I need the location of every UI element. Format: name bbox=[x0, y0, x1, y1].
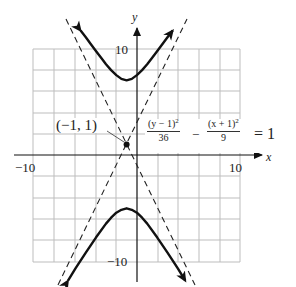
x-max-tick-label: 10 bbox=[229, 161, 242, 174]
y-max-tick-label: 10 bbox=[115, 43, 128, 56]
center-point-label: (−1, 1) bbox=[56, 118, 97, 133]
x-min-tick-label: −10 bbox=[15, 161, 35, 174]
y-min-tick-label: −10 bbox=[107, 255, 127, 268]
y-axis-label: y bbox=[132, 11, 137, 23]
fraction-2: (x + 1)2 9 bbox=[207, 119, 240, 143]
center-point bbox=[124, 141, 130, 147]
denominator-1: 36 bbox=[158, 132, 168, 144]
denominator-2: 9 bbox=[221, 132, 226, 144]
fraction-1: (y − 1)2 36 bbox=[147, 119, 180, 143]
numerator-1: (y − 1) bbox=[148, 118, 175, 129]
equation: (y − 1)2 36 − (x + 1)2 9 = 1 bbox=[145, 119, 295, 153]
equation-rhs: = 1 bbox=[254, 126, 275, 142]
hyperbola-graph: y x −10 10 10 −10 (−1, 1) (y − 1)2 36 − … bbox=[0, 0, 296, 287]
numerator-2: (x + 1) bbox=[208, 118, 235, 129]
minus-sign: − bbox=[192, 128, 199, 141]
